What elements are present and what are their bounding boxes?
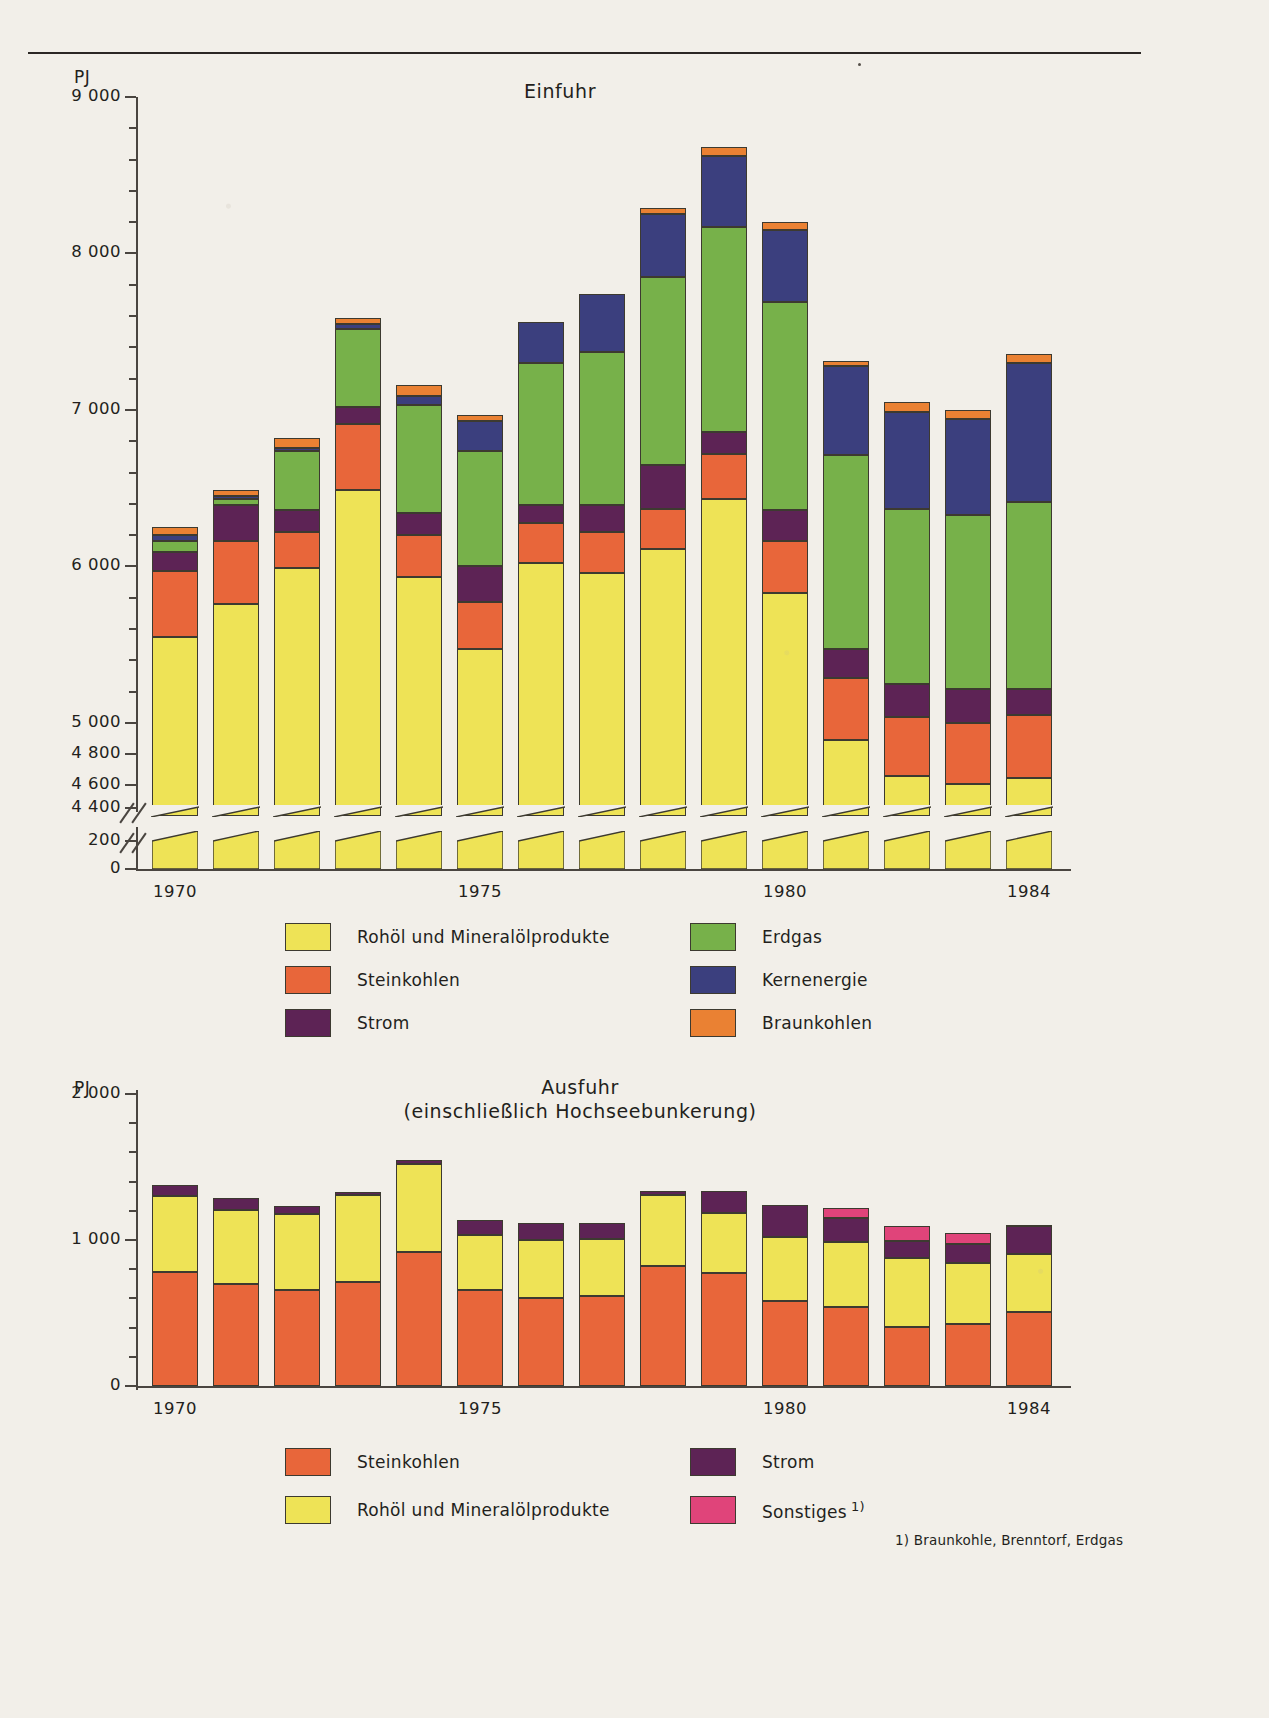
legend-ausfuhr: SteinkohlenStromRohöl und Mineralölprodu… [0,1040,1269,1718]
legend-swatch [285,966,331,994]
legend-label: Strom [762,1452,815,1472]
legend-swatch [285,1448,331,1476]
legend-swatch [690,1448,736,1476]
legend-swatch [690,966,736,994]
legend-swatch [690,923,736,951]
legend-label: Sonstiges1) [762,1499,865,1522]
figure-page: PJ Einfuhr 9 0008 0007 0006 0005 0004 80… [0,0,1269,1718]
legend-item-sonstiges[interactable]: Sonstiges1) [690,1496,865,1524]
footnote-sonstiges: 1) Braunkohle, Brenntorf, Erdgas [895,1532,1123,1548]
chart-ausfuhr: PJ Ausfuhr (einschließlich Hochseebunker… [0,1040,1269,1718]
legend-item-rohöl[interactable]: Rohöl und Mineralölprodukte [285,923,610,951]
legend-swatch [690,1496,736,1524]
legend-item-rohöl[interactable]: Rohöl und Mineralölprodukte [285,1496,610,1524]
legend-item-erdgas[interactable]: Erdgas [690,923,822,951]
legend-einfuhr: Rohöl und MineralölprodukteErdgasSteinko… [0,0,1269,1010]
legend-swatch [690,1009,736,1037]
legend-label: Kernenergie [762,970,868,990]
legend-item-steinkohlen[interactable]: Steinkohlen [285,966,460,994]
legend-label: Braunkohlen [762,1013,872,1033]
legend-item-strom[interactable]: Strom [690,1448,815,1476]
legend-swatch [285,1009,331,1037]
legend-label: Rohöl und Mineralölprodukte [357,1500,610,1520]
legend-label: Strom [357,1013,410,1033]
legend-swatch [285,1496,331,1524]
legend-label: Erdgas [762,927,822,947]
legend-item-kernenergie[interactable]: Kernenergie [690,966,868,994]
legend-item-strom[interactable]: Strom [285,1009,410,1037]
legend-swatch [285,923,331,951]
legend-label: Steinkohlen [357,1452,460,1472]
legend-label: Steinkohlen [357,970,460,990]
legend-item-steinkohlen[interactable]: Steinkohlen [285,1448,460,1476]
legend-label: Rohöl und Mineralölprodukte [357,927,610,947]
legend-item-braunkohlen[interactable]: Braunkohlen [690,1009,872,1037]
legend-footnote-marker: 1) [851,1499,865,1514]
chart-einfuhr: PJ Einfuhr 9 0008 0007 0006 0005 0004 80… [0,0,1269,1010]
